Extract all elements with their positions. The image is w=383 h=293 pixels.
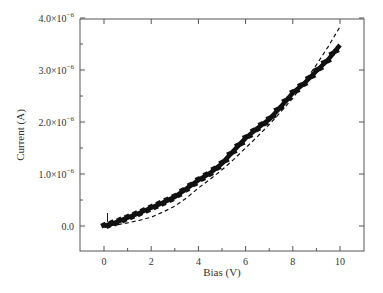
fit-curve-dashed [104, 27, 340, 226]
x-tick-label: 2 [149, 256, 154, 267]
x-tick-label: 10 [335, 256, 345, 267]
y-axis-ticks: 0.01.0×10−62.0×10−63.0×10−64.0×10−6 [38, 11, 364, 232]
plot-frame [80, 19, 364, 251]
x-tick-label: 6 [243, 256, 248, 267]
y-axis-label: Current (A) [14, 109, 27, 161]
y-tick-label: 3.0×10−6 [38, 63, 74, 76]
series-layer [100, 27, 340, 229]
y-tick-label: 2.0×10−6 [38, 115, 74, 128]
y-tick-label: 4.0×10−6 [38, 11, 74, 24]
x-tick-label: 8 [290, 256, 295, 267]
x-tick-label: 0 [102, 256, 107, 267]
y-tick-label: 0.0 [62, 221, 75, 232]
x-axis-label: Bias (V) [203, 266, 241, 279]
x-tick-label: 4 [196, 256, 201, 267]
y-tick-label: 1.0×10−6 [38, 167, 74, 180]
chart: 0246810 0.01.0×10−62.0×10−63.0×10−64.0×1… [0, 0, 383, 293]
measured-data-curve [104, 45, 340, 226]
x-axis-ticks: 0246810 [102, 19, 346, 267]
